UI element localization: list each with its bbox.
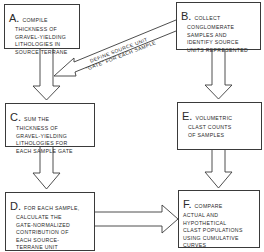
box-a-compile-thickness: A.COMPILE THICKNESS OF GRAVEL-YIELDING L… xyxy=(4,4,80,49)
box-text-line: CALCULATE THE xyxy=(10,214,91,222)
box-letter: A. xyxy=(9,12,19,24)
box-letter: D. xyxy=(10,200,21,212)
box-text-line: HYPOTHETICAL xyxy=(183,220,256,228)
box-text-line: IDENTIFY SOURCE xyxy=(181,39,257,47)
box-text-line: GATE-NORMALIZED xyxy=(10,222,91,230)
box-text-line: COLLECT xyxy=(194,15,220,21)
arrow-b-to-e xyxy=(205,50,232,99)
arrow-e-to-f xyxy=(205,150,232,188)
box-c-sum-thickness: C.SUM THE THICKNESS OF GRAVEL-YIELDING L… xyxy=(5,103,95,147)
box-text-line: EACH SOURCE- xyxy=(10,237,91,245)
box-letter: C. xyxy=(10,111,21,123)
box-text-line: COMPARE xyxy=(195,203,223,209)
box-text-line: GRAVEL-YIELDING xyxy=(9,34,76,42)
box-text-line: THICKNESS OF xyxy=(9,26,76,34)
box-text-line: USING CUMULATIVE xyxy=(183,235,256,243)
box-letter: B. xyxy=(181,10,191,22)
box-text-line: CONGLOMERATE xyxy=(181,24,257,32)
box-text-line: UNITS REPRESENTED xyxy=(181,47,257,55)
box-text-line: SUM THE xyxy=(24,116,49,122)
box-text-line: CURVES xyxy=(183,242,256,250)
box-text-line: VOLUMETRIC xyxy=(195,115,232,121)
box-text-line: TERRANE UNIT xyxy=(10,244,91,252)
box-d-gate-normalized-contribution: D.FOR EACH SAMPLE, CALCULATE THE GATE-NO… xyxy=(5,192,95,251)
box-text-line: SOURCE TERRANE xyxy=(9,49,76,57)
box-text-line: LITHOLOGIES IN xyxy=(9,41,76,49)
box-text-line: FOR EACH SAMPLE, xyxy=(24,205,80,211)
box-b-collect-samples: B.COLLECT CONGLOMERATE SAMPLES AND IDENT… xyxy=(176,2,261,50)
box-f-compare-populations: F.COMPARE ACTUAL AND HYPOTHETICAL CLAST … xyxy=(178,190,260,248)
box-letter: F. xyxy=(183,198,192,210)
box-text-line: OF SAMPLES xyxy=(182,132,258,140)
box-letter: E. xyxy=(182,110,192,122)
box-text-line: THICKNESS OF xyxy=(10,125,91,133)
box-text-line: SAMPLES AND xyxy=(181,32,257,40)
box-text-line: COMPILE xyxy=(22,17,47,23)
box-text-line: ACTUAL AND xyxy=(183,212,256,220)
box-e-volumetric-clast-counts: E.VOLUMETRIC CLAST COUNTS OF SAMPLES xyxy=(177,102,262,150)
box-text-line: EACH SAMPLE GATE xyxy=(10,148,91,156)
box-text-line: GRAVEL-YIELDING xyxy=(10,133,91,141)
arrow-d-to-f xyxy=(95,205,178,233)
box-text-line: CLAST COUNTS xyxy=(182,124,258,132)
box-text-line: LITHOLOGIES FOR xyxy=(10,140,91,148)
box-text-line: CONTRIBUTION OF xyxy=(10,229,91,237)
box-text-line: CLAST POPULATIONS xyxy=(183,227,256,235)
